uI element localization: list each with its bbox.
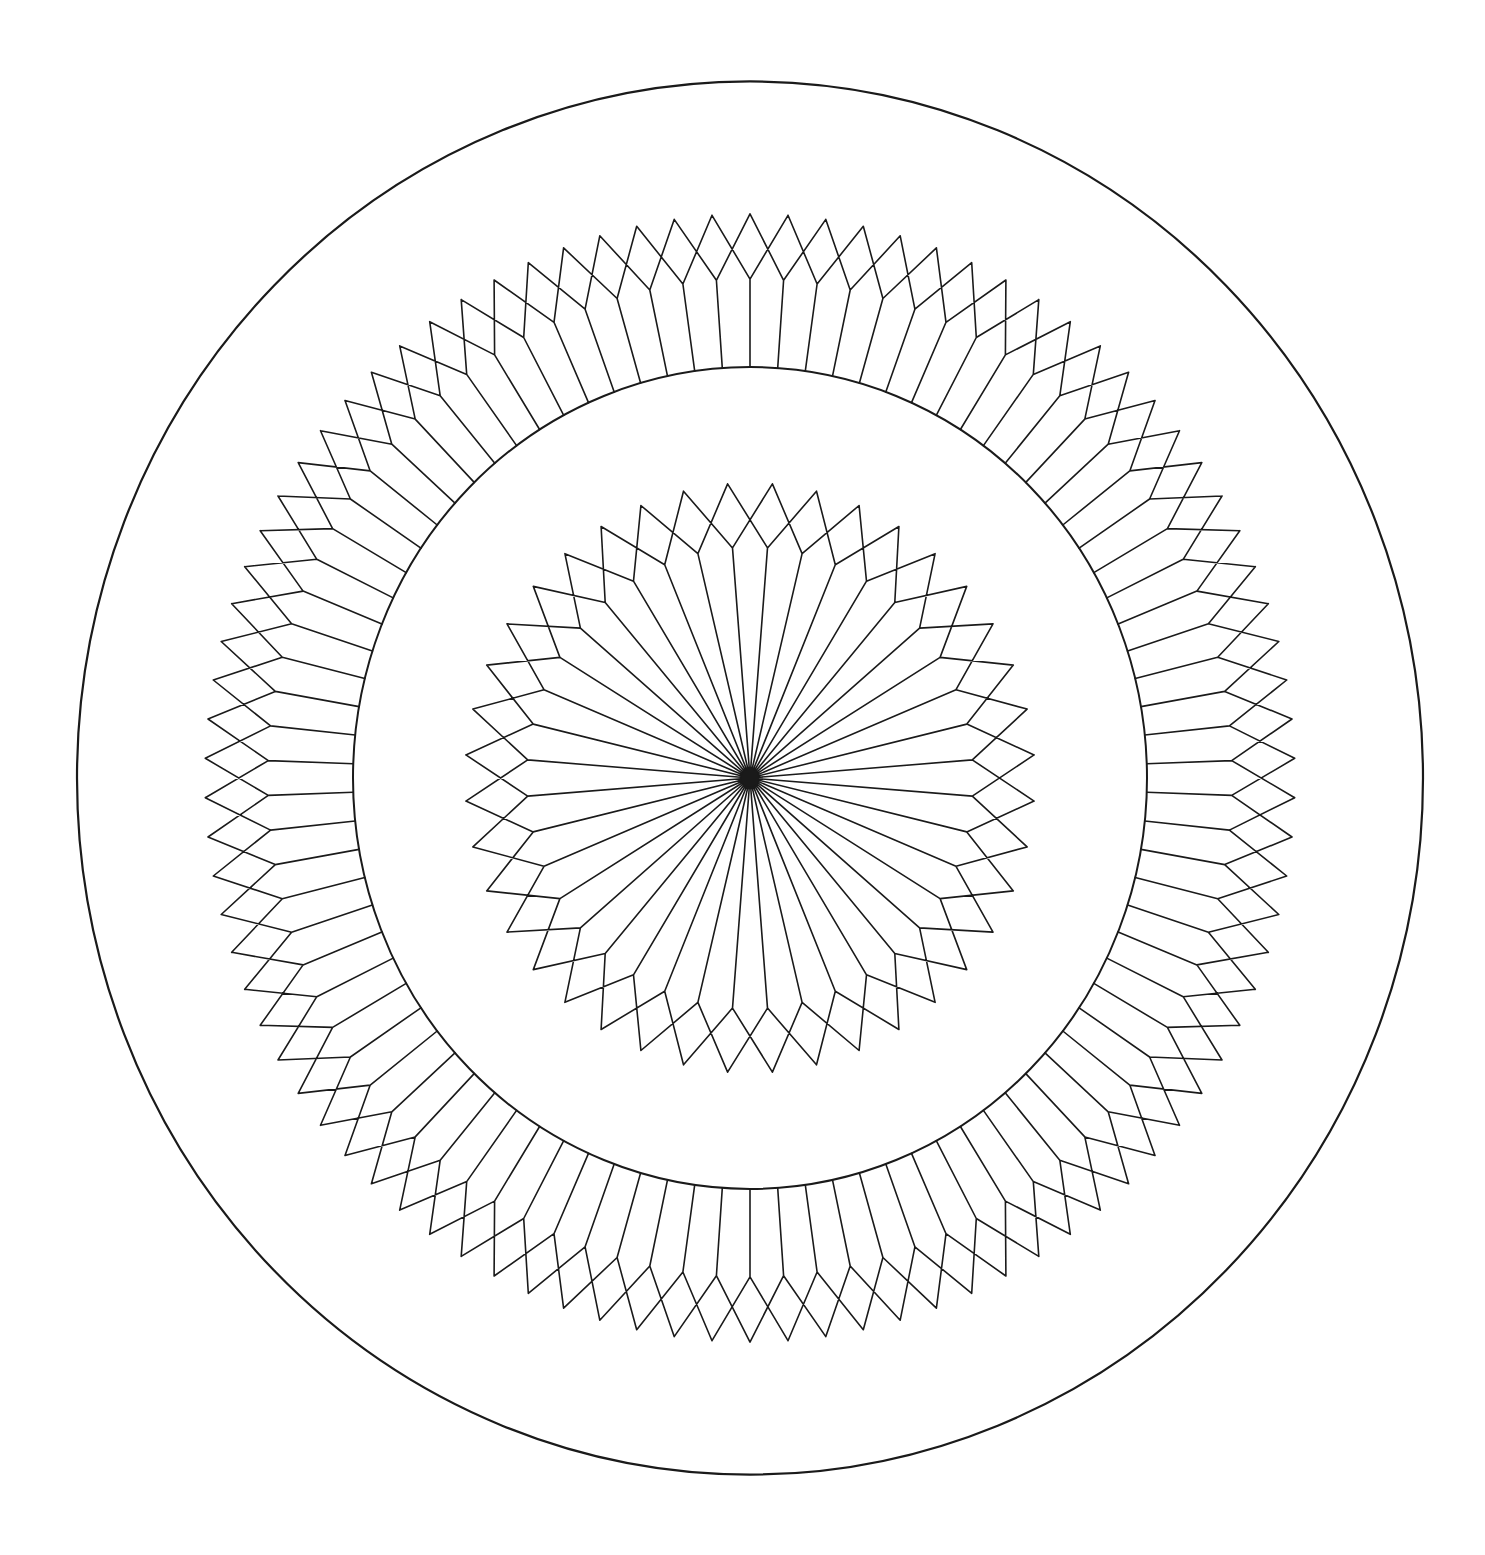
center-hub <box>741 769 759 787</box>
geometric-rosette-drawing <box>0 0 1485 1555</box>
